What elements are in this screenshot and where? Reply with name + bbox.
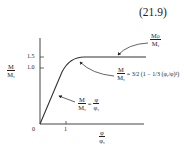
elastic-formula: MMᵧ = φφᵧ <box>78 96 99 111</box>
elastoplastic-formula: MMᵧ = 3/2 (1 − 1/3 (φᵧ/φ)²) <box>117 66 179 81</box>
origin-label: 0 <box>32 126 35 132</box>
x-axis-label: φφᵧ <box>99 129 105 144</box>
y-tick-1-5: 1.5 <box>27 53 35 59</box>
y-tick-1-0: 1.0 <box>27 64 35 70</box>
plastic-moment-label: MₚMᵧ <box>150 32 161 47</box>
y-axis-label: MMᵧ <box>7 63 15 78</box>
x-tick-1: 1 <box>64 126 67 132</box>
